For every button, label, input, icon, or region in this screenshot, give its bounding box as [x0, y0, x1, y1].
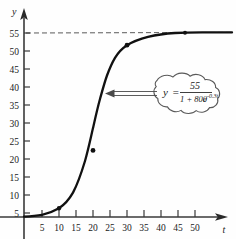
callout-arrow	[105, 90, 157, 98]
y-tick-label-40: 40	[10, 83, 20, 93]
x-tick-label-10: 10	[54, 223, 64, 233]
equation-numerator: 55	[190, 80, 200, 91]
data-point-marker-3	[125, 43, 130, 48]
x-tick-label-50: 50	[190, 223, 200, 233]
logistic-curve	[24, 32, 232, 216]
data-point-marker-4	[183, 31, 187, 35]
y-axis	[20, 8, 30, 239]
y-tick-label-30: 30	[10, 119, 20, 129]
equation-lhs: y	[162, 86, 168, 98]
x-tick-label-30: 30	[122, 223, 132, 233]
y-tick-label-45: 45	[10, 65, 20, 75]
y-tick-label-20: 20	[10, 155, 20, 165]
logistic-growth-figure: 55 50 45 40 35 30 25 20 15 10 5 y 5	[0, 0, 236, 239]
y-tick-label-35: 35	[10, 101, 20, 111]
y-tick-label-25: 25	[10, 137, 20, 147]
equation-equals: =	[172, 86, 179, 98]
x-tick-label-5: 5	[40, 223, 45, 233]
data-point-marker-1	[57, 206, 61, 210]
x-tick-label-35: 35	[139, 223, 149, 233]
equation-denominator-exponent: -0.3t	[207, 93, 218, 99]
x-tick-label-15: 15	[71, 223, 81, 233]
x-axis-label: t	[223, 224, 226, 235]
chart-canvas: 55 50 45 40 35 30 25 20 15 10 5 y 5	[0, 0, 236, 239]
x-tick-label-20: 20	[88, 223, 98, 233]
y-axis-label: y	[11, 6, 17, 17]
data-point-marker-2	[91, 148, 96, 153]
y-tick-label-10: 10	[10, 191, 20, 201]
x-tick-label-25: 25	[105, 223, 115, 233]
y-tick-label-15: 15	[10, 173, 20, 183]
y-tick-label-55: 55	[10, 29, 20, 39]
y-tick-label-50: 50	[10, 47, 20, 57]
x-tick-label-45: 45	[173, 223, 183, 233]
x-tick-label-40: 40	[156, 223, 166, 233]
